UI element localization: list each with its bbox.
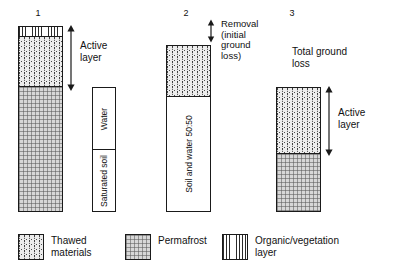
legend-label-permafrost: Permafrost <box>158 234 207 247</box>
band-thawed-materials-col3 <box>277 88 320 154</box>
legend-item-thawed-materials: Thawed materials <box>18 234 92 260</box>
active-layer-label-1: Active layer <box>80 40 140 63</box>
removal-arrow <box>203 19 219 43</box>
legend-label-organic-vegetation: Organic/vegetation layer <box>255 234 339 258</box>
legend-item-permafrost: Permafrost <box>125 234 207 260</box>
active-layer-arrow-1 <box>62 24 80 92</box>
phase-band-water: Water <box>93 88 115 150</box>
total-ground-loss-label: Total ground loss <box>292 46 402 69</box>
band-thawed-materials-col1 <box>19 37 62 87</box>
band-soil-and-water-col2: Soil and water 50:50 <box>167 97 210 211</box>
band-thawed-materials-col2 <box>167 46 210 97</box>
figure-canvas: 1 2 3 Active layer Water Saturated soil … <box>0 0 402 279</box>
band-organic-vegetation-col1 <box>19 27 62 37</box>
soil-column-3 <box>276 87 321 212</box>
active-layer-label-3: Active layer <box>338 107 398 130</box>
legend-swatch-permafrost-icon <box>125 234 151 260</box>
band-soil-and-water-label: Soil and water 50:50 <box>184 115 193 193</box>
column-number-2: 2 <box>172 8 200 18</box>
removal-label: Removal (initial ground loss) <box>221 19 283 61</box>
band-permafrost-col1 <box>19 87 62 211</box>
legend-label-thawed-materials: Thawed materials <box>51 234 92 258</box>
band-permafrost-col3 <box>277 154 320 211</box>
column-number-3: 3 <box>278 8 306 18</box>
phase-band-saturated-soil: Saturated soil <box>93 150 115 211</box>
soil-column-2: Soil and water 50:50 <box>166 45 211 212</box>
phase-composition-bar: Water Saturated soil <box>92 87 116 212</box>
legend-item-organic-vegetation: Organic/vegetation layer <box>222 234 339 260</box>
column-number-1: 1 <box>24 8 52 18</box>
legend-swatch-thawed-icon <box>18 234 44 260</box>
phase-band-saturated-soil-label: Saturated soil <box>100 155 109 207</box>
legend-swatch-organic-icon <box>222 234 248 260</box>
phase-band-water-label: Water <box>100 107 109 129</box>
soil-column-1 <box>18 26 63 212</box>
active-layer-arrow-3 <box>320 85 338 157</box>
